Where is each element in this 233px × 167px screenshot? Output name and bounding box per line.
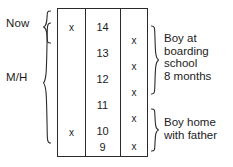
- right-mark-cell: x: [120, 88, 148, 98]
- brace-home-icon: [150, 108, 162, 152]
- age-cell: 10: [85, 126, 120, 137]
- right-mark-cell: x: [120, 114, 148, 124]
- age-table: x x 14 13 12 11 10 9 x x x x x: [57, 8, 148, 157]
- annotation-line: school: [164, 57, 211, 70]
- brace-boarding-icon: [150, 25, 162, 95]
- left-mark-cell: x: [58, 23, 85, 33]
- brace-mh-icon: [40, 22, 52, 144]
- annotation-boarding: Boy at boarding school 8 months: [164, 32, 211, 82]
- age-cell: 9: [85, 142, 120, 153]
- right-mark-cell: x: [120, 36, 148, 46]
- right-mark-cell: x: [120, 62, 148, 72]
- right-mark-cell: x: [120, 142, 148, 152]
- annotation-line: with father: [164, 129, 217, 142]
- age-cell: 11: [85, 100, 120, 111]
- annotation-line: Boy home: [164, 116, 217, 129]
- annotation-home: Boy home with father: [164, 116, 217, 141]
- label-mh: M/H: [6, 71, 27, 83]
- annotation-line: boarding: [164, 45, 211, 58]
- age-cell: 13: [85, 48, 120, 59]
- age-cell: 12: [85, 74, 120, 85]
- age-timeline-diagram: Now M/H x x 14 13 12 11 10 9 x x x x x B…: [0, 0, 233, 167]
- label-now: Now: [6, 17, 29, 29]
- age-cell: 14: [85, 22, 120, 33]
- column-divider-2: [120, 9, 121, 156]
- annotation-line: 8 months: [164, 70, 211, 83]
- left-mark-cell: x: [58, 128, 85, 138]
- annotation-line: Boy at: [164, 32, 211, 45]
